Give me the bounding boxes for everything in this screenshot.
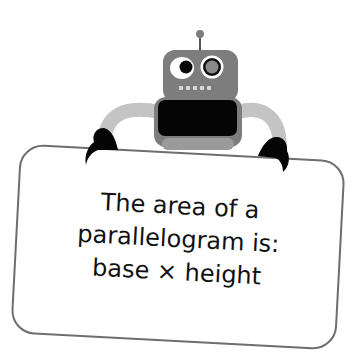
illustration: The area of a parallelogram is: base × h… (0, 0, 356, 352)
right-hand-icon (258, 137, 289, 172)
robot-hands (0, 0, 356, 352)
left-hand-icon (85, 128, 118, 165)
